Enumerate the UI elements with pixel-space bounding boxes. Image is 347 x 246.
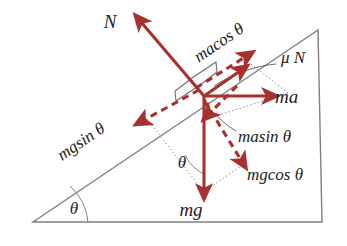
label-applied-perpendicular-component: masin θ: [238, 127, 291, 146]
weight-angle-arc: [185, 155, 204, 174]
dotted-mg-parallel-closure: [147, 119, 204, 192]
force-diagram-canvas: N μ N ma mg macos θ masin θ mgsin θ mgco…: [0, 0, 347, 246]
dotted-mg-perp-closure: [204, 163, 245, 192]
label-weight-angle-theta: θ: [178, 153, 186, 172]
label-applied-force: ma: [275, 86, 298, 107]
label-weight-parallel-component: mgsin θ: [54, 119, 109, 165]
dashed-component-vectors: [144, 57, 245, 160]
vector-normal-force: [141, 22, 204, 96]
label-normal-force: N: [103, 11, 118, 32]
label-applied-parallel-component: macos θ: [190, 19, 247, 66]
vector-weight-perpendicular-component: [204, 100, 241, 160]
inclined-plane-force-diagram: N μ N ma mg macos θ masin θ mgsin θ mgco…: [0, 0, 347, 246]
label-base-angle-theta: θ: [70, 199, 78, 218]
label-weight-perpendicular-component: mgcos θ: [247, 165, 303, 184]
label-weight-force: mg: [179, 199, 202, 220]
label-friction-force: μ N: [280, 48, 307, 67]
